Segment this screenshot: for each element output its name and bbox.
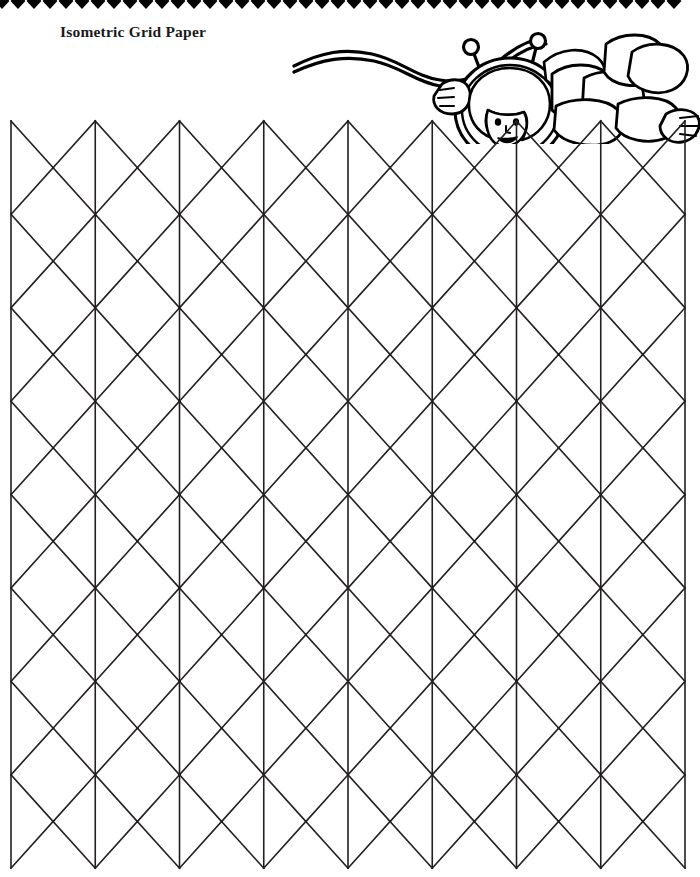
grid-line-diagonal-left — [95, 822, 137, 869]
grid-line-diagonal-right — [432, 121, 474, 168]
grid-line-diagonal-right — [348, 775, 390, 822]
grid-line-diagonal-left — [474, 308, 516, 355]
grid-line-diagonal-right — [53, 728, 95, 775]
grid-line-diagonal-left — [180, 541, 222, 588]
grid-line-diagonal-left — [11, 355, 53, 402]
grid-line-diagonal-right — [264, 308, 306, 355]
grid-line-diagonal-right — [517, 775, 559, 822]
grid-line-diagonal-left — [11, 822, 53, 869]
grid-line-diagonal-right — [180, 588, 222, 635]
grid-line-diagonal-left — [53, 214, 95, 261]
grid-line-diagonal-left — [643, 121, 685, 168]
grid-line-diagonal-right — [643, 168, 685, 215]
grid-line-diagonal-right — [264, 775, 306, 822]
grid-line-diagonal-right — [390, 635, 432, 682]
grid-line-diagonal-right — [137, 541, 179, 588]
grid-line-diagonal-right — [390, 355, 432, 402]
grid-line-diagonal-right — [222, 355, 264, 402]
grid-line-diagonal-left — [11, 448, 53, 495]
grid-line-diagonal-left — [517, 261, 559, 308]
grid-line-diagonal-left — [180, 355, 222, 402]
grid-line-diagonal-left — [390, 214, 432, 261]
grid-line-diagonal-right — [559, 822, 601, 869]
grid-line-diagonal-left — [53, 775, 95, 822]
grid-line-diagonal-left — [180, 448, 222, 495]
grid-line-diagonal-left — [53, 121, 95, 168]
grid-line-diagonal-left — [517, 168, 559, 215]
grid-line-diagonal-right — [474, 168, 516, 215]
grid-line-diagonal-right — [517, 214, 559, 261]
grid-line-diagonal-right — [432, 681, 474, 728]
grid-line-diagonal-right — [432, 308, 474, 355]
grid-line-diagonal-left — [180, 635, 222, 682]
grid-line-diagonal-left — [643, 588, 685, 635]
grid-line-diagonal-right — [601, 775, 643, 822]
grid-line-diagonal-right — [643, 822, 685, 869]
grid-line-diagonal-left — [137, 308, 179, 355]
grid-line-diagonal-left — [601, 261, 643, 308]
grid-line-diagonal-right — [474, 448, 516, 495]
grid-line-diagonal-left — [601, 728, 643, 775]
grid-line-diagonal-left — [180, 728, 222, 775]
grid-line-diagonal-left — [137, 214, 179, 261]
grid-line-diagonal-left — [601, 541, 643, 588]
grid-line-diagonal-right — [95, 775, 137, 822]
grid-line-diagonal-left — [264, 822, 306, 869]
grid-line-diagonal-left — [11, 261, 53, 308]
grid-line-diagonal-left — [390, 308, 432, 355]
grid-line-diagonal-right — [180, 681, 222, 728]
grid-line-diagonal-left — [559, 681, 601, 728]
grid-line-diagonal-right — [11, 401, 53, 448]
grid-line-diagonal-right — [601, 401, 643, 448]
grid-line-diagonal-right — [348, 121, 390, 168]
grid-line-diagonal-left — [390, 775, 432, 822]
grid-line-diagonal-left — [95, 541, 137, 588]
grid-line-diagonal-left — [222, 588, 264, 635]
grid-line-diagonal-left — [559, 401, 601, 448]
grid-line-diagonal-right — [11, 308, 53, 355]
grid-line-diagonal-left — [559, 308, 601, 355]
grid-line-diagonal-left — [601, 822, 643, 869]
grid-line-diagonal-right — [348, 401, 390, 448]
grid-line-diagonal-right — [390, 728, 432, 775]
grid-line-diagonal-left — [53, 495, 95, 542]
grid-line-diagonal-left — [348, 728, 390, 775]
grid-line-diagonal-right — [306, 822, 348, 869]
grid-line-diagonal-right — [53, 635, 95, 682]
grid-line-diagonal-left — [222, 495, 264, 542]
grid-line-diagonal-left — [474, 588, 516, 635]
grid-line-diagonal-right — [601, 681, 643, 728]
grid-line-diagonal-right — [222, 541, 264, 588]
grid-line-diagonal-right — [137, 635, 179, 682]
grid-line-diagonal-right — [306, 635, 348, 682]
grid-line-diagonal-right — [222, 635, 264, 682]
grid-line-diagonal-right — [53, 355, 95, 402]
grid-line-diagonal-right — [474, 261, 516, 308]
grid-line-diagonal-right — [517, 681, 559, 728]
grid-line-diagonal-right — [222, 448, 264, 495]
grid-line-diagonal-left — [222, 121, 264, 168]
grid-line-diagonal-left — [643, 681, 685, 728]
grid-line-diagonal-left — [95, 635, 137, 682]
grid-line-diagonal-left — [11, 168, 53, 215]
grid-paper-page: Isometric Grid Paper — [0, 0, 700, 877]
grid-line-diagonal-left — [517, 822, 559, 869]
grid-line-diagonal-right — [390, 448, 432, 495]
grid-line-diagonal-right — [348, 214, 390, 261]
grid-line-diagonal-left — [432, 261, 474, 308]
grid-line-diagonal-right — [264, 214, 306, 261]
grid-line-diagonal-right — [264, 495, 306, 542]
grid-line-diagonal-left — [348, 635, 390, 682]
grid-line-diagonal-left — [137, 588, 179, 635]
grid-line-diagonal-right — [11, 121, 53, 168]
grid-line-diagonal-left — [137, 495, 179, 542]
grid-line-diagonal-right — [306, 541, 348, 588]
grid-line-diagonal-left — [222, 308, 264, 355]
grid-line-diagonal-right — [11, 681, 53, 728]
grid-line-diagonal-left — [348, 168, 390, 215]
grid-line-diagonal-right — [53, 168, 95, 215]
grid-line-diagonal-right — [306, 355, 348, 402]
grid-line-diagonal-right — [390, 541, 432, 588]
grid-line-diagonal-left — [180, 261, 222, 308]
grid-line-diagonal-left — [137, 775, 179, 822]
